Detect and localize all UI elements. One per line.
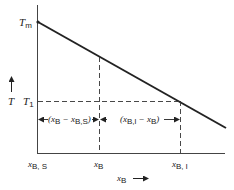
xbs-label: xB, S — [27, 159, 47, 171]
tm-point — [36, 20, 39, 23]
t1-label: T1 — [23, 95, 34, 109]
diagram: Tm T T1 (xB − xB,S) (xB,l − xB) xB, S xB… — [0, 0, 234, 190]
xb-axis-label: xB — [116, 173, 126, 185]
annotation-xb-minus-xbs: (xB − xB,S) — [48, 114, 91, 126]
annotation-xbl-minus-xb: (xB,l − xB) — [120, 114, 159, 126]
t-axis-label: T — [8, 95, 15, 107]
xb-label: xB — [93, 159, 103, 171]
liquidus-line — [38, 22, 226, 128]
tm-label: Tm — [19, 16, 32, 30]
xbl-label: xB, l — [171, 159, 188, 171]
